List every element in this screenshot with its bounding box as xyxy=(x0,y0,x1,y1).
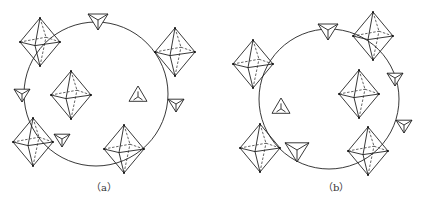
octahedron xyxy=(12,117,54,167)
octahedron xyxy=(50,70,92,120)
diagram xyxy=(0,0,425,199)
octahedron xyxy=(239,123,281,173)
octahedron xyxy=(19,17,61,67)
octahedron xyxy=(232,39,274,89)
panel-b-label: （b） xyxy=(323,179,349,194)
sphere xyxy=(24,22,168,166)
octahedron xyxy=(352,11,394,61)
octahedron xyxy=(347,126,389,176)
panel-a-label: （a） xyxy=(91,179,117,194)
octahedron xyxy=(338,69,380,119)
octahedron xyxy=(103,124,145,174)
octahedron xyxy=(154,27,196,77)
